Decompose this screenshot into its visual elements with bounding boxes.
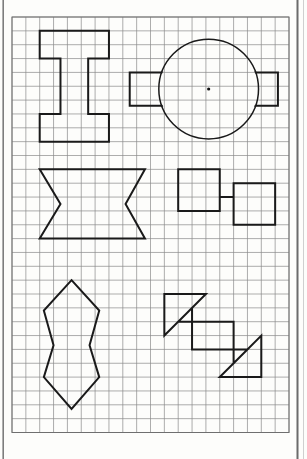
- graph-paper-canvas: [0, 0, 307, 459]
- worksheet-page: [0, 0, 307, 459]
- centre-dot: [207, 87, 210, 90]
